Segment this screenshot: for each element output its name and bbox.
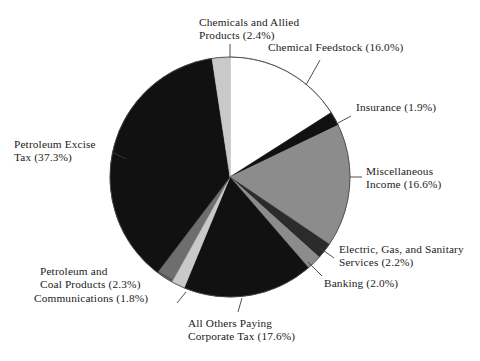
- pie-chart: Chemicals and Allied Products (2.4%) Che…: [0, 0, 480, 361]
- leader-line-insurance: [338, 116, 351, 123]
- slice-label-miscellaneous-income: Miscellaneous Income (16.6%): [366, 165, 442, 192]
- slice-label-insurance: Insurance (1.9%): [356, 101, 436, 114]
- slice-label-petroleum-excise-tax: Petroleum Excise Tax (37.3%): [14, 138, 96, 165]
- pie-slice-group: [110, 57, 350, 297]
- slice-label-banking: Banking (2.0%): [324, 277, 398, 290]
- leader-line-all-others: [238, 298, 242, 312]
- slice-label-petroleum-and-coal-products: Petroleum and Coal Products (2.3%): [40, 265, 141, 292]
- leader-line-banking: [308, 262, 322, 276]
- leader-line-communications: [177, 292, 186, 303]
- slice-label-chemicals-and-allied-products: Chemicals and Allied Products (2.4%): [199, 16, 299, 43]
- leader-line-chemical-feedstock: [306, 60, 320, 85]
- slice-label-electric-gas-and-sanitary-services: Electric, Gas, and Sanitary Services (2.…: [339, 243, 464, 270]
- slice-label-chemical-feedstock: Chemical Feedstock (16.0%): [268, 41, 403, 54]
- slice-label-all-others-paying-corporate-tax: All Others Paying Corporate Tax (17.6%): [188, 317, 295, 344]
- slice-label-communications: Communications (1.8%): [34, 292, 148, 305]
